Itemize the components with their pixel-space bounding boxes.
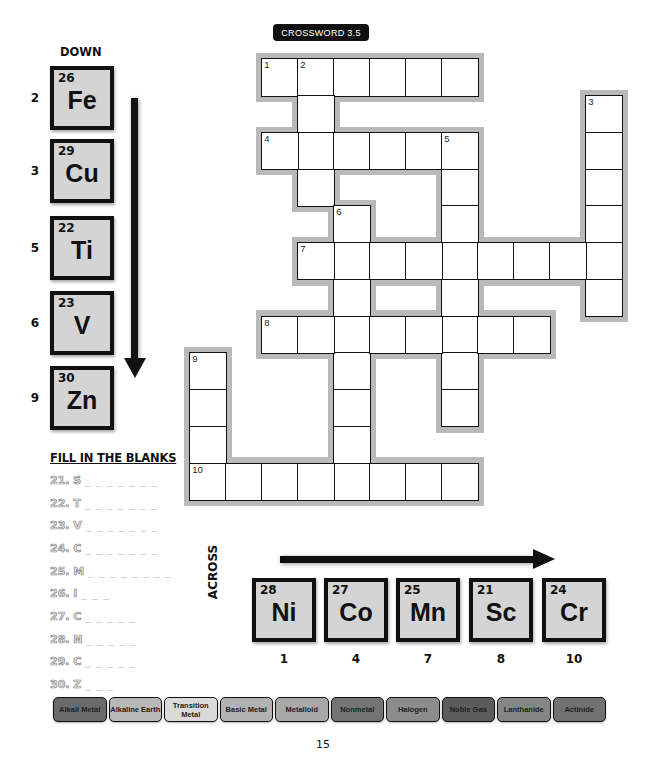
crossword-cell[interactable] (297, 132, 335, 170)
legend-lanthanide: Lanthanide (497, 697, 551, 722)
fill-in-blank-item[interactable]: 21. S _ _ _ _ _ _ _ (50, 474, 158, 487)
cell-clue-number: 7 (300, 243, 305, 254)
element-tile-mn: 25 Mn (396, 578, 460, 642)
crossword-cell[interactable] (585, 205, 623, 243)
crossword-cell[interactable] (585, 169, 623, 207)
page-number: 15 (0, 738, 646, 751)
crossword-cell[interactable] (189, 426, 227, 464)
crossword-cell[interactable] (441, 205, 479, 243)
crossword-cell[interactable] (585, 279, 623, 317)
blank-line[interactable]: _ _ _ _ _ _ _ (86, 519, 158, 532)
crossword-cell[interactable]: 5 (441, 132, 479, 170)
crossword-cell[interactable] (369, 132, 407, 170)
crossword-cell[interactable] (333, 58, 371, 96)
fill-in-blank-item[interactable]: 27. C _ _ _ _ _ (50, 610, 136, 623)
crossword-cell[interactable] (369, 242, 407, 280)
crossword-cell[interactable] (549, 242, 587, 280)
blank-label: 28. N (50, 633, 83, 646)
crossword-cell[interactable] (297, 169, 335, 207)
crossword-cell[interactable] (225, 463, 263, 501)
crossword-cell[interactable] (369, 58, 407, 96)
crossword-cell[interactable] (477, 242, 515, 280)
crossword-cell[interactable] (405, 132, 443, 170)
across-arrow-icon (280, 556, 535, 563)
fill-in-blank-item[interactable]: 23. V _ _ _ _ _ _ _ (50, 519, 158, 532)
crossword-cell[interactable] (333, 242, 371, 280)
fill-in-blank-item[interactable]: 29. C _ _ _ _ _ (50, 655, 136, 668)
cell-clue-number: 10 (192, 464, 203, 475)
crossword-cell[interactable] (441, 279, 479, 317)
fill-in-blank-item[interactable]: 24. C _ _ _ _ _ _ _ (50, 542, 158, 555)
fill-in-blank-item[interactable]: 25. M _ _ _ _ _ _ _ _ (50, 565, 172, 578)
blank-line[interactable]: _ _ _ _ _ (85, 610, 136, 623)
blank-line[interactable]: _ _ _ _ _ _ _ (85, 474, 157, 487)
crossword-cell[interactable] (369, 463, 407, 501)
crossword-cell[interactable] (189, 389, 227, 427)
fill-in-blank-item[interactable]: 28. N _ _ _ _ _ (50, 633, 137, 646)
crossword-cell[interactable] (405, 58, 443, 96)
crossword-cell[interactable] (333, 132, 371, 170)
crossword-cell[interactable] (405, 316, 443, 354)
fill-in-blank-item[interactable]: 22. T _ _ _ _ _ _ _ (50, 497, 157, 510)
blank-label: 25. M (50, 565, 84, 578)
blank-label: 27. C (50, 610, 81, 623)
crossword-cell[interactable] (333, 463, 371, 501)
crossword-cell[interactable] (405, 463, 443, 501)
blank-line[interactable]: _ _ _ _ _ _ _ (85, 542, 157, 555)
crossword-cell[interactable] (333, 279, 371, 317)
crossword-cell[interactable] (297, 463, 335, 501)
crossword-cell[interactable] (585, 132, 623, 170)
crossword-cell[interactable]: 10 (189, 463, 227, 501)
across-clue-number: 4 (324, 652, 388, 666)
crossword-cell[interactable] (585, 242, 623, 280)
crossword-cell[interactable] (477, 316, 515, 354)
crossword-cell[interactable] (333, 389, 371, 427)
legend-basic-metal: Basic Metal (220, 697, 274, 722)
crossword-cell[interactable] (297, 95, 335, 133)
crossword-cell[interactable] (441, 242, 479, 280)
crossword-cell[interactable] (441, 169, 479, 207)
crossword-cell[interactable] (513, 242, 551, 280)
crossword-cell[interactable]: 8 (261, 316, 299, 354)
blank-line[interactable]: _ _ _ _ _ _ _ (85, 497, 157, 510)
crossword-cell[interactable]: 4 (261, 132, 299, 170)
crossword-cell[interactable] (441, 463, 479, 501)
legend-alkaline-earth: Alkaline Earth (109, 697, 163, 722)
blank-line[interactable]: _ _ _ (81, 587, 110, 600)
cell-clue-number: 3 (588, 96, 593, 107)
fill-in-blank-item[interactable]: 26. I _ _ _ (50, 587, 110, 600)
crossword-cell[interactable]: 1 (261, 58, 299, 96)
cell-clue-number: 6 (336, 206, 341, 217)
element-tile-ni: 28 Ni (252, 578, 316, 642)
crossword-cell[interactable] (369, 316, 407, 354)
crossword-cell[interactable] (333, 316, 371, 354)
crossword-cell[interactable]: 3 (585, 95, 623, 133)
blank-line[interactable]: _ _ _ _ _ (86, 633, 137, 646)
crossword-cell[interactable]: 9 (189, 352, 227, 390)
crossword-cell[interactable] (261, 463, 299, 501)
crossword-cell[interactable] (297, 316, 335, 354)
crossword-cell[interactable] (441, 352, 479, 390)
crossword-cell[interactable] (441, 316, 479, 354)
cell-clue-number: 5 (444, 133, 449, 144)
crossword-cell[interactable] (441, 389, 479, 427)
across-clue-number: 7 (396, 652, 460, 666)
blank-line[interactable]: _ _ _ (85, 678, 114, 691)
blank-label: 22. T (50, 497, 81, 510)
blank-line[interactable]: _ _ _ _ _ _ _ _ (88, 565, 171, 578)
crossword-cell[interactable] (405, 242, 443, 280)
legend-noble-gas: Noble Gas (442, 697, 496, 722)
element-symbol: Sc (473, 598, 529, 627)
legend-alkali-metal: Alkali Metal (53, 697, 107, 722)
blank-label: 26. I (50, 587, 77, 600)
crossword-cell[interactable]: 6 (333, 205, 371, 243)
fill-in-blank-item[interactable]: 30. Z _ _ _ (50, 678, 114, 691)
crossword-cell[interactable] (333, 352, 371, 390)
crossword-cell[interactable] (513, 316, 551, 354)
crossword-cell[interactable]: 2 (297, 58, 335, 96)
crossword-cell[interactable] (441, 58, 479, 96)
crossword-cell[interactable]: 7 (297, 242, 335, 280)
crossword-cell[interactable] (333, 426, 371, 464)
legend-halogen: Halogen (386, 697, 440, 722)
blank-line[interactable]: _ _ _ _ _ (85, 655, 136, 668)
